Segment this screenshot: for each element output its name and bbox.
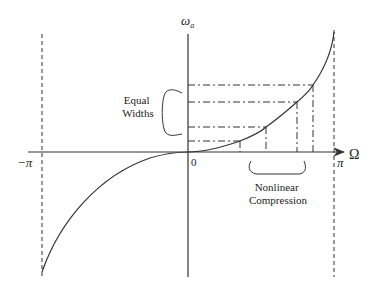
origin-label: 0 [191,156,197,168]
nonlinear-compression-brace [249,161,305,174]
y-axis-label: ωa [181,13,194,30]
nonlinear-compression-label: Nonlinear Compression [249,181,308,206]
equal-widths-brace [162,90,182,136]
equal-width-guides [188,85,313,141]
pos-pi-label: π [337,155,344,170]
frequency-warping-diagram: ωa Ω 0 −π π Equal Widths Nonlinear Compr… [0,0,379,291]
neg-pi-label: −π [17,155,33,170]
equal-widths-label: Equal Widths [122,94,153,119]
x-axis-label: Ω [349,147,359,162]
